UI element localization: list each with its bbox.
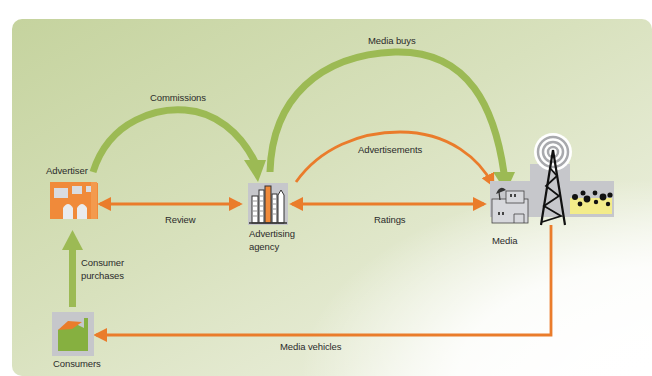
- advertiser-label: Advertiser: [46, 165, 88, 177]
- house-icon: [52, 312, 94, 356]
- consumer-purchases-label-line2: purchases: [81, 270, 124, 282]
- factory-icon: [50, 182, 98, 219]
- commissions-label: Commissions: [150, 92, 206, 104]
- advertisements-label: Advertisements: [358, 144, 422, 156]
- media-buys-label: Media buys: [368, 35, 416, 47]
- review-label: Review: [165, 214, 196, 226]
- media-vehicles-label: Media vehicles: [280, 341, 341, 353]
- diagram-canvas: [0, 0, 652, 376]
- agency-label-line2: agency: [249, 241, 279, 253]
- agency-label-line1: Advertising: [249, 228, 295, 240]
- city-buildings-icon: [248, 183, 288, 225]
- consumers-label: Consumers: [53, 358, 101, 370]
- ratings-label: Ratings: [374, 214, 406, 226]
- consumer-purchases-label-line1: Consumer: [81, 257, 124, 269]
- media-label: Media: [492, 235, 517, 247]
